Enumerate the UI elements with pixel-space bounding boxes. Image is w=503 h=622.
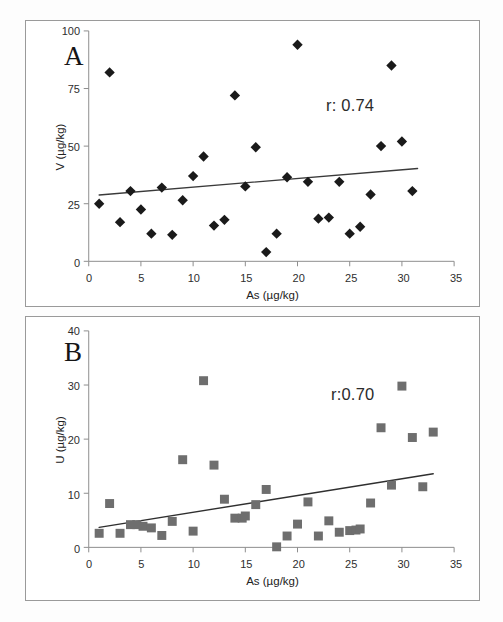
data-point: [324, 212, 334, 222]
data-point: [251, 142, 261, 152]
x-tick-label: 30: [397, 558, 409, 570]
x-tick-label: 15: [240, 272, 252, 284]
data-point: [167, 230, 177, 240]
data-point: [188, 171, 198, 181]
x-tick-label: 10: [188, 272, 200, 284]
panel-b-correlation-label: r:0.70: [331, 385, 374, 404]
data-point: [376, 141, 386, 151]
data-point: [209, 220, 219, 230]
data-point: [230, 90, 240, 100]
data-point: [261, 247, 271, 257]
panel-b-x-axis-title: As (µg/kg): [246, 575, 299, 587]
data-point: [407, 186, 417, 196]
x-tick-label: 15: [240, 558, 252, 570]
data-point: [168, 517, 177, 526]
data-point: [324, 516, 333, 525]
x-tick-label: 25: [345, 558, 357, 570]
x-tick-label: 35: [450, 272, 462, 284]
x-tick-label: 0: [86, 558, 92, 570]
data-point: [189, 527, 198, 536]
data-point: [313, 214, 323, 224]
panel-b: B r:0.70 05101520253035010203040 As (µg/…: [25, 316, 480, 601]
data-point: [271, 229, 281, 239]
data-point: [115, 217, 125, 227]
data-point: [178, 195, 188, 205]
x-tick-label: 0: [86, 272, 92, 284]
y-tick-label: 0: [74, 543, 80, 555]
panel-a-x-axis-title: As (µg/kg): [246, 289, 299, 301]
panel-a-letter: A: [64, 43, 84, 70]
x-tick-label: 5: [138, 558, 144, 570]
data-point: [219, 215, 229, 225]
data-point: [251, 500, 260, 509]
data-point: [387, 481, 396, 490]
y-tick-label: 50: [68, 141, 80, 153]
data-point: [334, 177, 344, 187]
data-point: [365, 189, 375, 199]
data-point: [356, 525, 365, 534]
data-point: [199, 376, 208, 385]
data-point: [283, 532, 292, 541]
y-tick-label: 100: [62, 25, 80, 37]
data-point: [220, 495, 229, 504]
figure-root: A r: 0.74 051015202530350255075100 As (µ…: [0, 0, 503, 622]
data-point: [292, 40, 302, 50]
y-tick-label: 30: [68, 380, 80, 392]
data-point: [355, 222, 365, 232]
data-point: [314, 532, 323, 541]
data-point: [397, 382, 406, 391]
data-point: [293, 520, 302, 529]
data-point: [136, 204, 146, 214]
data-point: [157, 531, 166, 540]
panel-a-y-axis-title: V (µg/kg): [54, 124, 66, 171]
data-point: [241, 512, 250, 521]
data-point: [429, 428, 438, 437]
panel-a-correlation-label: r: 0.74: [326, 96, 374, 115]
data-point: [178, 455, 187, 464]
data-point: [105, 499, 114, 508]
data-point: [198, 151, 208, 161]
data-point: [345, 229, 355, 239]
y-tick-label: 0: [74, 257, 80, 269]
panel-b-plot: [26, 317, 479, 600]
y-tick-label: 75: [68, 83, 80, 95]
x-tick-label: 10: [188, 558, 200, 570]
data-point: [335, 528, 344, 537]
y-tick-label: 25: [68, 199, 80, 211]
x-tick-label: 25: [345, 272, 357, 284]
data-point: [125, 186, 135, 196]
x-tick-label: 30: [397, 272, 409, 284]
data-point: [157, 182, 167, 192]
data-point: [272, 542, 281, 551]
data-point: [262, 485, 271, 494]
y-tick-label: 20: [68, 434, 80, 446]
data-point: [386, 60, 396, 70]
data-point: [282, 172, 292, 182]
data-point: [408, 433, 417, 442]
x-tick-label: 35: [450, 558, 462, 570]
x-tick-label: 20: [293, 272, 305, 284]
data-point: [418, 482, 427, 491]
data-point: [146, 229, 156, 239]
data-point: [210, 461, 219, 470]
data-point: [139, 522, 148, 531]
data-point: [94, 199, 104, 209]
data-point: [104, 67, 114, 77]
data-point: [397, 136, 407, 146]
panel-a: A r: 0.74 051015202530350255075100 As (µ…: [25, 20, 480, 307]
data-point: [366, 499, 375, 508]
x-tick-label: 20: [293, 558, 305, 570]
data-point: [377, 423, 386, 432]
data-point: [303, 497, 312, 506]
y-tick-label: 10: [68, 489, 80, 501]
data-point: [95, 529, 104, 538]
panel-a-plot: [26, 21, 479, 306]
data-point: [116, 529, 125, 538]
y-tick-label: 40: [68, 325, 80, 337]
panel-b-y-axis-title: U (µg/kg): [54, 416, 66, 464]
x-tick-label: 5: [138, 272, 144, 284]
panel-b-letter: B: [64, 339, 83, 366]
data-point: [147, 523, 156, 532]
